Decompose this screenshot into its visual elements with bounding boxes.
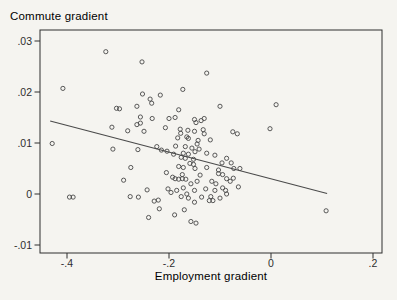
x-tick-label: -.2 xyxy=(163,257,175,269)
data-point-marker xyxy=(189,219,193,223)
data-point-marker xyxy=(111,147,115,151)
data-point-marker xyxy=(128,195,132,199)
data-point-marker xyxy=(274,103,278,107)
data-point-marker xyxy=(126,129,130,133)
data-point-marker xyxy=(181,151,185,155)
data-point-marker xyxy=(201,128,205,132)
data-point-marker xyxy=(147,215,151,219)
data-point-marker xyxy=(181,165,185,169)
data-point-marker xyxy=(195,179,199,183)
data-point-marker xyxy=(189,182,193,186)
data-point-marker xyxy=(138,115,142,119)
data-point-marker xyxy=(198,173,202,177)
data-point-marker xyxy=(225,156,229,160)
data-point-marker xyxy=(152,199,156,203)
data-point-marker xyxy=(200,195,204,199)
data-point-marker xyxy=(192,188,196,192)
x-tick-label: 0 xyxy=(268,257,274,269)
data-point-marker xyxy=(110,125,114,129)
data-point-marker xyxy=(166,187,170,191)
data-point-marker xyxy=(208,138,212,142)
data-point-marker xyxy=(135,104,139,108)
data-point-marker xyxy=(213,188,217,192)
data-point-marker xyxy=(214,182,218,186)
data-point-marker xyxy=(186,128,190,132)
data-point-marker xyxy=(238,166,242,170)
data-point-marker xyxy=(50,141,54,145)
data-point-marker xyxy=(173,115,177,119)
x-axis-label: Employment gradient xyxy=(40,270,382,282)
data-point-marker xyxy=(213,153,217,157)
data-point-marker xyxy=(163,126,167,130)
data-point-marker xyxy=(181,186,185,190)
y-tick-label: .01 xyxy=(17,137,32,149)
data-point-marker xyxy=(221,173,225,177)
data-point-marker xyxy=(231,176,235,180)
data-point-marker xyxy=(205,151,209,155)
data-point-marker xyxy=(268,127,272,131)
data-point-marker xyxy=(218,196,222,200)
scatter-plot-canvas: .03.02.010-.01-.4-.20.2 xyxy=(0,0,397,300)
data-point-marker xyxy=(192,129,196,133)
data-point-marker xyxy=(117,107,121,111)
data-point-marker xyxy=(178,127,182,131)
y-tick-label: -.01 xyxy=(14,239,32,251)
data-point-marker xyxy=(140,92,144,96)
data-point-marker xyxy=(142,129,146,133)
axis-ticks xyxy=(35,41,374,259)
data-point-marker xyxy=(186,152,190,156)
chart-figure: .03.02.010-.01-.4-.20.2 Commute gradient… xyxy=(0,0,397,300)
data-point-marker xyxy=(169,190,173,194)
y-tick-label: .03 xyxy=(17,35,32,47)
data-point-marker xyxy=(177,108,181,112)
data-point-marker xyxy=(193,166,197,170)
data-point-marker xyxy=(236,185,240,189)
y-tick-label: 0 xyxy=(26,188,32,200)
data-point-marker xyxy=(173,213,177,217)
data-point-marker xyxy=(136,148,140,152)
data-point-marker xyxy=(174,144,178,148)
data-point-marker xyxy=(140,60,144,64)
data-point-marker xyxy=(122,178,126,182)
data-point-marker xyxy=(183,145,187,149)
data-point-marker xyxy=(235,132,239,136)
data-point-marker xyxy=(104,50,108,54)
data-point-marker xyxy=(181,87,185,91)
data-point-marker xyxy=(197,147,201,151)
data-point-marker xyxy=(210,179,214,183)
x-tick-label: .2 xyxy=(369,257,378,269)
data-point-marker xyxy=(179,131,183,135)
data-point-marker xyxy=(205,165,209,169)
data-point-marker xyxy=(190,146,194,150)
tick-labels: .03.02.010-.01-.4-.20.2 xyxy=(14,35,378,270)
data-point-marker xyxy=(209,195,213,199)
data-point-marker xyxy=(180,173,184,177)
data-point-marker xyxy=(218,104,222,108)
data-point-marker xyxy=(157,207,161,211)
data-point-marker xyxy=(179,195,183,199)
data-point-marker xyxy=(177,164,181,168)
x-tick-label: -.4 xyxy=(61,257,73,269)
data-point-marker xyxy=(150,101,154,105)
data-point-marker xyxy=(150,116,154,120)
data-point-marker xyxy=(231,130,235,134)
data-point-marker xyxy=(158,93,162,97)
data-points xyxy=(50,50,328,226)
data-point-marker xyxy=(167,116,171,120)
data-point-marker xyxy=(194,221,198,225)
data-point-marker xyxy=(205,71,209,75)
data-point-marker xyxy=(175,188,179,192)
data-point-marker xyxy=(324,209,328,213)
data-point-marker xyxy=(182,208,186,212)
data-point-marker xyxy=(176,136,180,140)
data-point-marker xyxy=(192,200,196,204)
data-point-marker xyxy=(204,187,208,191)
data-point-marker xyxy=(136,195,140,199)
data-point-marker xyxy=(145,188,149,192)
data-point-marker xyxy=(61,86,65,90)
data-point-marker xyxy=(186,196,190,200)
data-point-marker xyxy=(164,171,168,175)
data-point-marker xyxy=(129,165,133,169)
chart-title: Commute gradient xyxy=(10,10,108,22)
data-point-marker xyxy=(220,161,224,165)
